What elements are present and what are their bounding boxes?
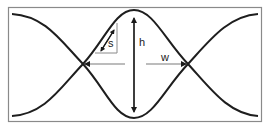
frame-border — [9, 8, 262, 122]
height-label: h — [139, 37, 145, 48]
curve-rising-falling — [12, 10, 258, 116]
diagram-canvas: h w s — [0, 0, 270, 129]
curve-falling-rising — [12, 14, 258, 118]
slope-label: s — [108, 38, 114, 49]
width-label: w — [161, 52, 169, 63]
diagram-svg — [0, 0, 270, 129]
